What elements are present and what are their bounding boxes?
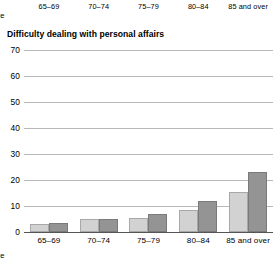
top-chart-category-label: 80–84: [173, 1, 223, 12]
top-chart-category-labels: 65–69 70–74 75–79 80–84 85 and over: [24, 1, 273, 12]
x-axis-label: 85 and over: [223, 235, 273, 247]
bar-chart: Difficulty dealing with personal affairs…: [0, 26, 273, 267]
x-axis-title: ge: [0, 251, 5, 261]
top-chart-category-label: 85 and over: [223, 1, 273, 12]
y-axis-tick-label: 40: [0, 124, 20, 133]
y-axis-tick-label: 50: [0, 98, 20, 107]
y-axis-tick-label: 70: [0, 46, 20, 55]
y-axis-tick-label: 0: [0, 228, 20, 237]
bar: [198, 201, 217, 232]
x-axis-category-labels: 65–69 70–74 75–79 80–84 85 and over: [24, 235, 273, 247]
bar-group: [74, 50, 124, 232]
y-axis-tick-label: 30: [0, 150, 20, 159]
bar: [30, 224, 49, 232]
x-axis-label: 65–69: [24, 235, 74, 247]
top-chart-category-label: 75–79: [124, 1, 174, 12]
bar: [179, 210, 198, 232]
bar: [148, 214, 167, 232]
bar: [129, 218, 148, 232]
x-axis-label: 70–74: [74, 235, 124, 247]
y-axis-tick-label: 20: [0, 176, 20, 185]
bar: [248, 172, 267, 232]
axis-baseline: [24, 232, 273, 233]
y-axis-tick-label: 60: [0, 72, 20, 81]
bar-group: [24, 50, 74, 232]
top-chart-x-axis-title: ge: [0, 11, 5, 21]
top-partial-chart: 65–69 70–74 75–79 80–84 85 and over ge: [0, 0, 273, 26]
chart-title: Difficulty dealing with personal affairs: [7, 29, 164, 40]
bar: [80, 219, 99, 232]
plot-area: 010203040506070: [24, 50, 273, 232]
top-chart-category-label: 70–74: [74, 1, 124, 12]
x-axis-label: 75–79: [124, 235, 174, 247]
bar-group: [173, 50, 223, 232]
x-axis-label: 80–84: [173, 235, 223, 247]
bar-group: [223, 50, 273, 232]
bar-group: [124, 50, 174, 232]
top-chart-category-label: 65–69: [24, 1, 74, 12]
bar: [99, 219, 118, 232]
bar-groups: [24, 50, 273, 232]
y-axis-tick-label: 10: [0, 202, 20, 211]
bar: [229, 192, 248, 232]
bar: [49, 223, 68, 232]
